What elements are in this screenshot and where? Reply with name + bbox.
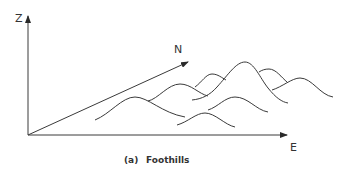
diagram-canvas: Z N E (a) Foothills [0, 0, 355, 178]
hill-contours [95, 62, 333, 127]
z-axis-label: Z [15, 12, 23, 25]
small-back-hill-contour [195, 74, 226, 87]
caption-tag: (a) [124, 155, 138, 165]
n-axis [28, 62, 188, 135]
small-right-hill-contour [259, 69, 287, 82]
foothills-diagram: Z N E (a) Foothills [0, 0, 355, 178]
caption-title: Foothills [146, 155, 189, 165]
e-axis-label: E [290, 141, 297, 154]
tall-hill-contour [192, 62, 288, 103]
bottom-hill-contour [177, 113, 235, 127]
n-axis-label: N [174, 43, 182, 56]
left-hill-contour [95, 97, 185, 120]
right-hill-contour [272, 78, 333, 97]
middle-lower-hill-contour [208, 97, 268, 112]
